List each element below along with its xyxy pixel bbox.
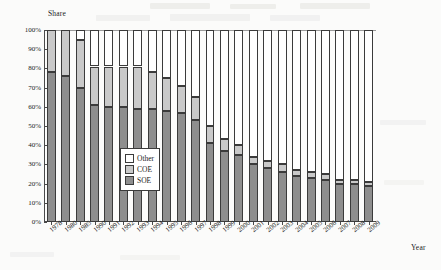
bar-segment-soe[interactable] [90, 105, 99, 222]
bar-segment-coe[interactable] [335, 180, 344, 184]
bar-segment-coe[interactable] [61, 30, 70, 76]
bar-column[interactable] [234, 30, 243, 222]
bar-segment-other[interactable] [119, 30, 128, 66]
bar-segment-coe[interactable] [307, 172, 316, 178]
bar-column[interactable] [364, 30, 373, 222]
bar-segment-other[interactable] [364, 30, 373, 182]
bar-segment-coe[interactable] [350, 180, 359, 184]
scan-artifact [270, 15, 320, 21]
bar-segment-other[interactable] [133, 30, 142, 66]
bar-segment-soe[interactable] [220, 151, 229, 222]
bar-segment-soe[interactable] [278, 172, 287, 222]
bar-segment-other[interactable] [234, 30, 243, 145]
bar-segment-soe[interactable] [263, 168, 272, 222]
bar-segment-coe[interactable] [133, 67, 142, 109]
legend-swatch-icon [125, 176, 134, 185]
bar-segment-other[interactable] [220, 30, 229, 139]
bar-column[interactable] [177, 30, 186, 222]
bar-segment-other[interactable] [307, 30, 316, 172]
scan-artifact [380, 120, 426, 125]
bar-column[interactable] [104, 30, 113, 222]
bar-segment-other[interactable] [321, 30, 330, 174]
bar-segment-coe[interactable] [177, 86, 186, 113]
bar-segment-other[interactable] [278, 30, 287, 164]
legend-item-soe[interactable]: SOE [125, 176, 154, 185]
bar-segment-other[interactable] [292, 30, 301, 170]
bar-segment-soe[interactable] [249, 164, 258, 222]
bar-column[interactable] [148, 30, 157, 222]
bar-segment-other[interactable] [177, 30, 186, 86]
bar-segment-coe[interactable] [249, 157, 258, 165]
legend-item-coe[interactable]: COE [125, 165, 154, 174]
bar-segment-coe[interactable] [119, 67, 128, 107]
y-axis-tick-label: 80% [15, 64, 41, 72]
bar-column[interactable] [278, 30, 287, 222]
x-axis-title: Year [411, 243, 426, 252]
bar-column[interactable] [206, 30, 215, 222]
bar-segment-coe[interactable] [191, 97, 200, 120]
bar-column[interactable] [133, 30, 142, 222]
bar-column[interactable] [119, 30, 128, 222]
scan-artifact [170, 14, 250, 21]
bar-segment-coe[interactable] [148, 72, 157, 108]
bar-column[interactable] [191, 30, 200, 222]
bar-segment-soe[interactable] [76, 88, 85, 222]
bar-segment-other[interactable] [335, 30, 344, 180]
bar-segment-soe[interactable] [307, 178, 316, 222]
bar-column[interactable] [321, 30, 330, 222]
bar-segment-coe[interactable] [321, 174, 330, 180]
bar-column[interactable] [292, 30, 301, 222]
bar-segment-soe[interactable] [206, 143, 215, 222]
bar-segment-soe[interactable] [162, 111, 171, 222]
bar-segment-soe[interactable] [234, 155, 243, 222]
bar-segment-coe[interactable] [47, 30, 56, 72]
bar-column[interactable] [335, 30, 344, 222]
bar-segment-coe[interactable] [220, 139, 229, 151]
bar-segment-coe[interactable] [278, 164, 287, 172]
y-axis-tick-label: 50% [15, 122, 41, 130]
legend-item-label: COE [137, 166, 152, 174]
bar-segment-soe[interactable] [364, 186, 373, 222]
bar-column[interactable] [76, 30, 85, 222]
bar-segment-other[interactable] [191, 30, 200, 97]
bar-column[interactable] [307, 30, 316, 222]
bar-segment-coe[interactable] [162, 78, 171, 111]
bar-column[interactable] [249, 30, 258, 222]
bar-segment-coe[interactable] [364, 182, 373, 186]
bar-column[interactable] [61, 30, 70, 222]
bar-segment-soe[interactable] [335, 184, 344, 222]
bar-segment-other[interactable] [104, 30, 113, 66]
bar-segment-coe[interactable] [76, 40, 85, 88]
bar-segment-other[interactable] [76, 30, 85, 40]
bar-segment-coe[interactable] [263, 161, 272, 169]
bar-column[interactable] [350, 30, 359, 222]
bar-segment-other[interactable] [90, 30, 99, 66]
chart-legend: OtherCOESOE [120, 148, 160, 191]
bar-segment-soe[interactable] [61, 76, 70, 222]
bar-column[interactable] [162, 30, 171, 222]
bar-segment-soe[interactable] [321, 180, 330, 222]
bar-segment-other[interactable] [263, 30, 272, 161]
bar-column[interactable] [47, 30, 56, 222]
scan-artifact [384, 180, 424, 185]
bar-segment-soe[interactable] [191, 120, 200, 222]
bar-column[interactable] [220, 30, 229, 222]
legend-item-other[interactable]: Other [125, 154, 154, 163]
bar-segment-coe[interactable] [90, 67, 99, 105]
bar-segment-soe[interactable] [177, 113, 186, 222]
bar-segment-soe[interactable] [104, 107, 113, 222]
bar-segment-other[interactable] [249, 30, 258, 157]
bar-segment-coe[interactable] [234, 145, 243, 155]
bar-segment-soe[interactable] [350, 184, 359, 222]
bar-segment-coe[interactable] [206, 126, 215, 143]
bar-segment-soe[interactable] [47, 72, 56, 222]
bar-segment-other[interactable] [162, 30, 171, 78]
bar-segment-soe[interactable] [292, 176, 301, 222]
bar-column[interactable] [263, 30, 272, 222]
bar-segment-coe[interactable] [104, 67, 113, 107]
bar-segment-other[interactable] [350, 30, 359, 180]
bar-segment-other[interactable] [206, 30, 215, 126]
bar-segment-coe[interactable] [292, 170, 301, 176]
bar-segment-other[interactable] [148, 30, 157, 72]
bar-column[interactable] [90, 30, 99, 222]
